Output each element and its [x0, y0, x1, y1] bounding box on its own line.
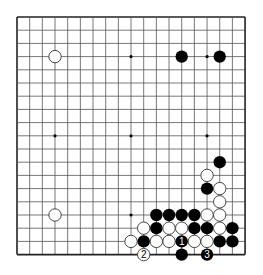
white-stone — [214, 209, 226, 221]
white-stone — [188, 235, 200, 247]
black-stone — [150, 222, 162, 234]
white-stone — [201, 209, 213, 221]
star-point — [129, 213, 132, 216]
white-stone — [49, 50, 61, 62]
black-stone — [176, 50, 188, 62]
star-point — [205, 55, 208, 58]
white-stone — [150, 235, 162, 247]
black-stone — [214, 235, 226, 247]
black-stone — [163, 209, 175, 221]
black-stone — [188, 222, 200, 234]
white-stone — [201, 235, 213, 247]
white-stone — [49, 209, 61, 221]
star-point — [129, 134, 132, 137]
black-stone — [138, 235, 150, 247]
black-stone — [214, 50, 226, 62]
move-number: 1 — [179, 236, 185, 247]
black-stone — [226, 222, 238, 234]
black-stone: 1 — [176, 235, 188, 247]
white-stone: 2 — [138, 248, 150, 260]
white-stone — [163, 222, 175, 234]
black-stone — [201, 222, 213, 234]
white-stone — [125, 235, 137, 247]
black-stone: 3 — [201, 248, 213, 260]
move-number: 3 — [204, 249, 210, 260]
move-number: 2 — [141, 249, 147, 260]
white-stone — [201, 169, 213, 181]
white-stone — [163, 235, 175, 247]
star-point — [53, 134, 56, 137]
black-stone — [188, 209, 200, 221]
white-stone — [214, 222, 226, 234]
black-stone — [150, 209, 162, 221]
black-stone — [226, 235, 238, 247]
star-point — [129, 55, 132, 58]
white-stone — [138, 222, 150, 234]
go-board: 123 — [0, 0, 263, 275]
white-stone — [214, 182, 226, 194]
white-stone — [214, 196, 226, 208]
white-stone — [176, 222, 188, 234]
star-point — [205, 134, 208, 137]
black-stone — [176, 209, 188, 221]
black-stone — [176, 248, 188, 260]
black-stone — [201, 182, 213, 194]
black-stone — [214, 156, 226, 168]
